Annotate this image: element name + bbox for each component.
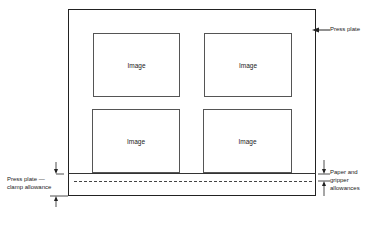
image-label: Image <box>239 62 257 69</box>
dimension-arrows-icon <box>50 162 70 207</box>
image-box-bottom-left: Image <box>92 109 180 173</box>
dashed-gripper-line <box>74 181 312 182</box>
image-box-top-left: Image <box>93 33 180 97</box>
allowance-band-line <box>68 173 316 174</box>
gripper-label-line1: Paper and <box>330 169 358 177</box>
image-label: Image <box>127 62 145 69</box>
arrow-left-icon <box>310 25 330 35</box>
gripper-label-line2: gripper <box>330 177 349 185</box>
gripper-label-line3: allowances <box>330 185 360 193</box>
clamp-allowance-label-line2: clamp allowance <box>7 184 51 192</box>
image-box-top-right: Image <box>204 33 292 97</box>
image-box-bottom-right: Image <box>203 109 292 173</box>
image-label: Image <box>127 138 145 145</box>
clamp-allowance-label-line1: Press plate — <box>7 176 45 184</box>
press-plate-label: Press plate <box>330 26 360 34</box>
image-label: Image <box>238 138 256 145</box>
